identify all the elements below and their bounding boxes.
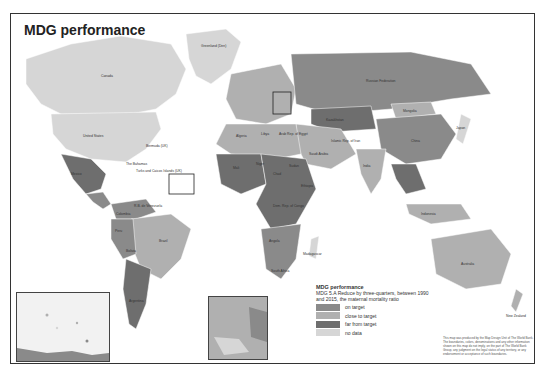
region-west-africa <box>216 154 266 194</box>
label-kazakhstan: Kazakhstan <box>326 118 344 122</box>
label-venezuela: R.B. de Venezuela <box>134 204 162 208</box>
label-mali: Mali <box>233 166 239 170</box>
region-europe <box>226 64 296 124</box>
caribbean-inset <box>16 292 110 362</box>
region-indonesia <box>406 204 471 224</box>
label-ethiopia: Ethiopia <box>301 184 313 188</box>
region-australia <box>431 229 511 289</box>
label-angola: Angola <box>269 239 280 243</box>
legend-swatch <box>316 304 340 311</box>
label-peru: Peru <box>115 229 122 233</box>
label-algeria: Algeria <box>236 134 247 138</box>
legend-item-close-to-target: close to target <box>316 312 431 319</box>
label-united-states: United States <box>83 134 103 138</box>
map-frame: MDG performance <box>10 13 535 364</box>
label-russia: Russian Federation <box>366 79 395 83</box>
legend-swatch <box>316 329 340 336</box>
label-bahamas: The Bahamas <box>126 162 147 166</box>
disclaimer-note: This map was produced by the Map Design … <box>443 336 535 356</box>
label-saudi: Saudi Arabia <box>309 152 328 156</box>
label-argentina: Argentina <box>129 299 144 303</box>
label-madagascar: Madagascar <box>303 252 322 256</box>
label-india: India <box>363 164 370 168</box>
legend: MDG performance MDG 5.A Reduce by three-… <box>316 284 431 336</box>
label-egypt: Arab Rep. of Egypt <box>279 132 308 136</box>
region-central-east-africa <box>256 154 316 229</box>
region-mexico <box>61 154 106 194</box>
legend-item-on-target: on target <box>316 304 431 311</box>
caribbean-inset-marker <box>169 174 194 194</box>
label-new-zealand: New Zealand <box>506 314 526 318</box>
legend-item-no-data: no data <box>316 329 431 336</box>
label-sudan: Sudan <box>289 164 299 168</box>
label-niger: Niger <box>256 162 264 166</box>
label-indonesia: Indonesia <box>421 212 436 216</box>
label-canada: Canada <box>101 74 113 78</box>
region-central-america <box>86 192 111 209</box>
europe-inset <box>208 296 268 360</box>
legend-swatch <box>316 321 340 328</box>
legend-item-far-from-target: far from target <box>316 321 431 328</box>
label-libya: Libya <box>261 132 269 136</box>
legend-swatch <box>316 312 340 319</box>
label-colombia: Colombia <box>116 212 130 216</box>
label-greenland: Greenland (Den) <box>201 44 226 48</box>
label-bolivia: Bolivia <box>126 249 136 253</box>
label-japan: Japan <box>456 126 465 130</box>
region-united-states <box>51 112 161 162</box>
label-china: China <box>411 139 420 143</box>
label-mexico: Mexico <box>71 172 82 176</box>
region-new-zealand <box>511 289 523 312</box>
label-chad: Chad <box>273 172 281 176</box>
label-australia: Australia <box>461 262 474 266</box>
label-mongolia: Mongolia <box>403 109 417 113</box>
label-iran: Islamic Rep. of Iran <box>331 139 360 143</box>
label-drc: Dem. Rep. of Congo <box>273 204 304 208</box>
label-bermuda: Bermuda (UK) <box>146 144 168 148</box>
region-colombia-venezuela <box>111 199 156 219</box>
region-argentina <box>123 259 151 329</box>
label-south-africa: South Africa <box>271 269 289 273</box>
label-turks: Turks and Caicos Islands (UK) <box>136 169 182 173</box>
region-india <box>356 149 386 194</box>
region-peru-bolivia <box>111 219 136 259</box>
label-brazil: Brazil <box>159 239 167 243</box>
region-southeast-asia <box>391 164 426 194</box>
legend-description: MDG 5.A Reduce by three-quarters, betwee… <box>316 290 431 302</box>
